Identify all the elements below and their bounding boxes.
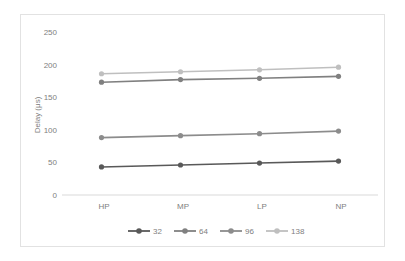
data-point	[257, 67, 262, 72]
series-line-96	[102, 131, 339, 138]
legend-item-96[interactable]: 96	[220, 227, 254, 236]
legend-swatch-marker	[228, 228, 234, 234]
legend-label: 64	[199, 227, 208, 236]
series-138	[99, 65, 341, 77]
legend-swatch-marker	[274, 228, 280, 234]
series-32	[99, 158, 341, 169]
y-axis-title: Delay (μs)	[33, 96, 42, 133]
data-point	[99, 164, 104, 169]
x-tick-label-mp: MP	[177, 202, 189, 211]
legend-swatch-marker	[182, 228, 188, 234]
data-point	[99, 135, 104, 140]
data-point	[336, 158, 341, 163]
legend-item-138[interactable]: 138	[266, 227, 305, 236]
legend-item-32[interactable]: 32	[128, 227, 162, 236]
data-point	[178, 69, 183, 74]
data-point	[336, 74, 341, 79]
chart-legend: 326496138	[128, 227, 305, 236]
data-point	[336, 65, 341, 70]
data-point	[178, 77, 183, 82]
series-line-32	[102, 161, 339, 167]
x-tick-label-lp: LP	[257, 202, 267, 211]
y-tick-label-250: 250	[44, 28, 58, 37]
data-point	[99, 71, 104, 76]
series-line-64	[102, 76, 339, 82]
y-tick-label-50: 50	[48, 158, 57, 167]
data-point	[99, 80, 104, 85]
series-layer	[99, 65, 341, 170]
data-point	[257, 131, 262, 136]
series-96	[99, 129, 341, 141]
series-line-138	[102, 67, 339, 74]
data-point	[336, 129, 341, 134]
y-tick-label-150: 150	[44, 93, 58, 102]
data-point	[178, 162, 183, 167]
series-64	[99, 74, 341, 85]
legend-label: 138	[291, 227, 305, 236]
data-point	[178, 133, 183, 138]
data-point	[257, 76, 262, 81]
x-tick-label-hp: HP	[98, 202, 109, 211]
data-point	[257, 160, 262, 165]
chart-canvas: 250 200 150 100 50 0 Delay (μs) HP MP LP…	[0, 0, 405, 261]
y-tick-label-0: 0	[53, 191, 58, 200]
y-tick-label-200: 200	[44, 61, 58, 70]
legend-swatch-marker	[136, 228, 142, 234]
chart-figure: 250 200 150 100 50 0 Delay (μs) HP MP LP…	[0, 0, 405, 261]
y-tick-label-100: 100	[44, 126, 58, 135]
legend-label: 32	[153, 227, 162, 236]
legend-item-64[interactable]: 64	[174, 227, 208, 236]
legend-label: 96	[245, 227, 254, 236]
x-tick-label-np: NP	[335, 202, 346, 211]
